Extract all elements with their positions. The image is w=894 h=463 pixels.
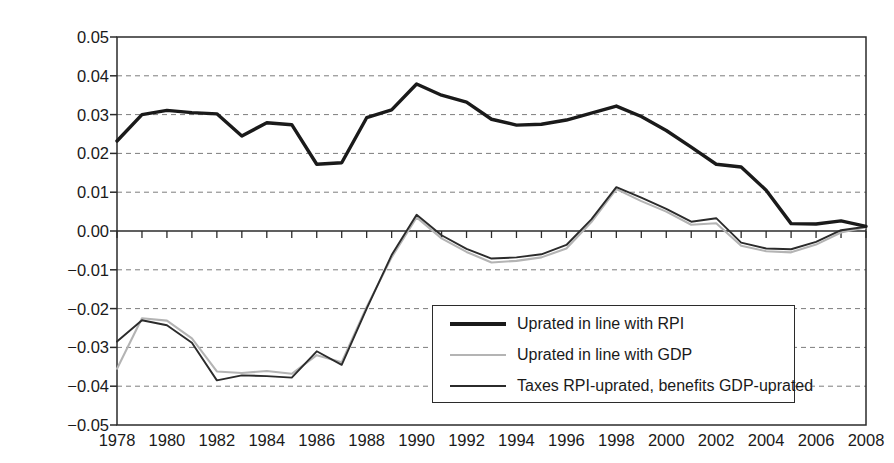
legend-label-gdp: Uprated in line with GDP <box>517 346 692 364</box>
x-tick-marks <box>117 231 866 238</box>
y-tick-label: 0.00 <box>51 223 109 240</box>
chart-legend: Uprated in line with RPI Uprated in line… <box>432 305 795 403</box>
y-tick-label: 0.01 <box>51 184 109 201</box>
x-tick-label: 1998 <box>598 432 635 449</box>
x-tick-label: 2004 <box>748 432 785 449</box>
legend-label-rpi: Uprated in line with RPI <box>517 315 684 333</box>
y-axis-tick-labels: 0.050.040.030.020.010.00−0.01−0.02−0.03−… <box>47 0 109 463</box>
x-tick-label: 1992 <box>448 432 485 449</box>
y-tick-label: 0.02 <box>51 145 109 162</box>
x-tick-label: 1988 <box>348 432 385 449</box>
x-tick-label: 1990 <box>398 432 435 449</box>
x-tick-label: 1984 <box>248 432 285 449</box>
x-tick-label: 2000 <box>648 432 685 449</box>
legend-item-gdp: Uprated in line with GDP <box>433 339 794 371</box>
x-tick-label: 1986 <box>298 432 335 449</box>
x-tick-label: 1982 <box>199 432 236 449</box>
gini-uprating-chart: Increase in Gini relative to 2008–09 0.0… <box>0 0 894 463</box>
y-tick-label: 0.05 <box>51 29 109 46</box>
x-tick-label: 2008 <box>848 432 885 449</box>
y-tick-label: 0.04 <box>51 68 109 85</box>
y-tick-label: −0.03 <box>51 339 109 356</box>
x-tick-label: 1978 <box>99 432 136 449</box>
y-tick-label: −0.01 <box>51 262 109 279</box>
y-tick-label: −0.02 <box>51 300 109 317</box>
x-tick-label: 1980 <box>149 432 186 449</box>
x-tick-label: 1994 <box>498 432 535 449</box>
y-tick-label: −0.04 <box>51 378 109 395</box>
legend-swatch-gdp <box>450 349 506 361</box>
y-tick-marks <box>110 37 117 425</box>
legend-label-mixed: Taxes RPI-uprated, benefits GDP-uprated <box>517 377 813 395</box>
x-tick-label: 1996 <box>548 432 585 449</box>
legend-swatch-rpi <box>450 318 506 330</box>
x-tick-label: 2006 <box>798 432 835 449</box>
x-tick-label: 2002 <box>698 432 735 449</box>
legend-swatch-mixed <box>450 380 506 392</box>
legend-item-rpi: Uprated in line with RPI <box>433 308 794 340</box>
legend-item-mixed: Taxes RPI-uprated, benefits GDP-uprated <box>433 370 794 402</box>
y-tick-label: 0.03 <box>51 106 109 123</box>
